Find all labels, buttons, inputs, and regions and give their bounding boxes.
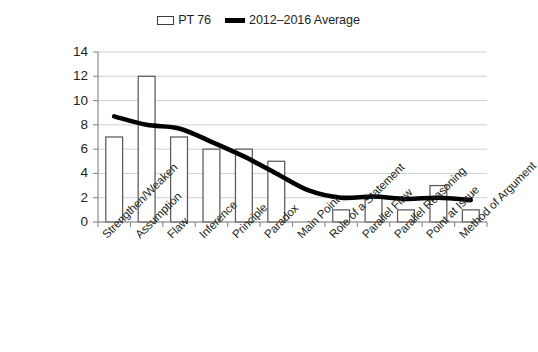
y-axis-tick-label: 10 [54,94,88,108]
bar [171,137,188,222]
y-axis-tick-label: 12 [54,69,88,83]
y-axis-tick-label: 0 [54,215,88,229]
y-axis-tick-label: 6 [54,142,88,156]
average-line [114,116,471,200]
y-axis-tick-label: 8 [54,118,88,132]
y-axis-tick-label: 14 [54,45,88,59]
y-axis-tick-label: 2 [54,191,88,205]
y-axis-ticks [93,52,98,222]
y-axis-tick-label: 4 [54,166,88,180]
